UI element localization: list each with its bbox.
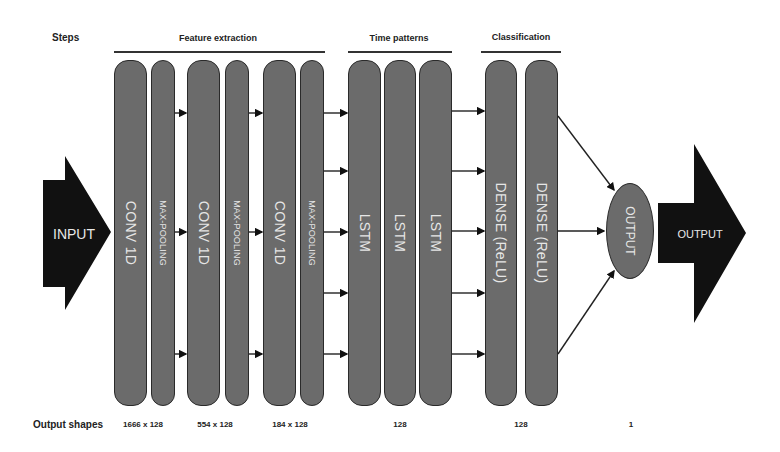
output-shapes-label: Output shapes	[33, 419, 103, 430]
group-rule-classification	[481, 51, 561, 53]
output-shape-final: 1	[629, 420, 633, 429]
layer-label: LSTM	[357, 214, 373, 253]
layer-lstm-3: LSTM	[419, 60, 452, 406]
layer-maxpool-1: MAX-POOLING	[151, 60, 175, 406]
output-shape-conv3: 184 x 128	[272, 420, 308, 429]
layer-label: DENSE (ReLU)	[534, 183, 550, 284]
layer-maxpool-2: MAX-POOLING	[225, 60, 249, 406]
output-node-label: OUTPUT	[623, 206, 637, 255]
layer-label: LSTM	[392, 214, 408, 253]
layer-label: CONV 1D	[272, 201, 288, 265]
layer-lstm-1: LSTM	[348, 60, 381, 406]
layer-conv1d-2: CONV 1D	[187, 60, 220, 406]
layer-label: MAX-POOLING	[158, 200, 168, 266]
group-label-feature-extraction: Feature extraction	[179, 33, 257, 43]
output-shape-dense: 128	[514, 420, 527, 429]
layer-label: DENSE (ReLU)	[493, 183, 509, 284]
output-node: OUTPUT	[606, 183, 654, 279]
group-rule-time-patterns	[348, 51, 452, 53]
steps-label: Steps	[52, 32, 79, 43]
layer-label: CONV 1D	[123, 201, 139, 265]
layer-maxpool-3: MAX-POOLING	[300, 60, 324, 406]
output-shape-conv2: 554 x 128	[197, 420, 233, 429]
input-label: INPUT	[53, 226, 95, 242]
layer-label: MAX-POOLING	[232, 200, 242, 266]
group-label-classification: Classification	[492, 32, 551, 42]
group-label-time-patterns: Time patterns	[370, 33, 429, 43]
layer-dense-1: DENSE (ReLU)	[485, 60, 517, 406]
layer-label: MAX-POOLING	[307, 200, 317, 266]
layer-lstm-2: LSTM	[384, 60, 416, 406]
output-arrow-label: OUTPUT	[677, 228, 722, 240]
layer-conv1d-1: CONV 1D	[114, 60, 147, 406]
output-shape-conv1: 1666 x 128	[123, 420, 163, 429]
layer-dense-2: DENSE (ReLU)	[525, 60, 558, 406]
layer-label: CONV 1D	[196, 201, 212, 265]
layer-conv1d-3: CONV 1D	[263, 60, 296, 406]
group-rule-feature-extraction	[114, 51, 325, 53]
layer-label: LSTM	[428, 214, 444, 253]
output-shape-lstm: 128	[393, 420, 406, 429]
